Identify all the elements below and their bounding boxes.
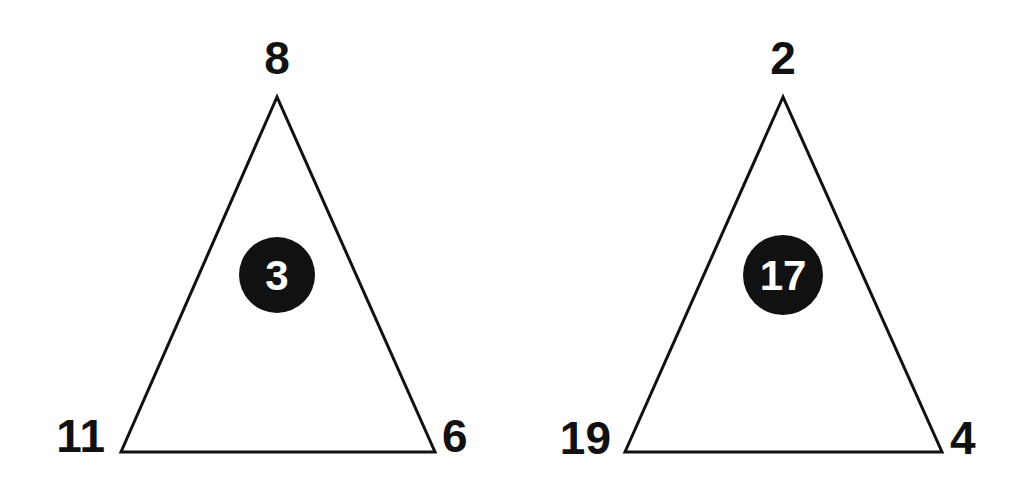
top-number: 8 xyxy=(264,32,290,84)
bottom-right-number: 6 xyxy=(442,410,468,462)
number-triangles-diagram: 3 8 11 6 17 2 19 4 xyxy=(0,0,1035,487)
center-number: 3 xyxy=(265,252,288,299)
triangle-puzzle-1: 3 8 11 6 xyxy=(56,32,467,462)
bottom-left-number: 11 xyxy=(56,410,105,462)
triangle-puzzle-2: 17 2 19 4 xyxy=(560,32,976,464)
bottom-right-number: 4 xyxy=(950,412,976,464)
center-number: 17 xyxy=(760,252,807,299)
top-number: 2 xyxy=(770,32,796,84)
bottom-left-number: 19 xyxy=(560,412,611,464)
